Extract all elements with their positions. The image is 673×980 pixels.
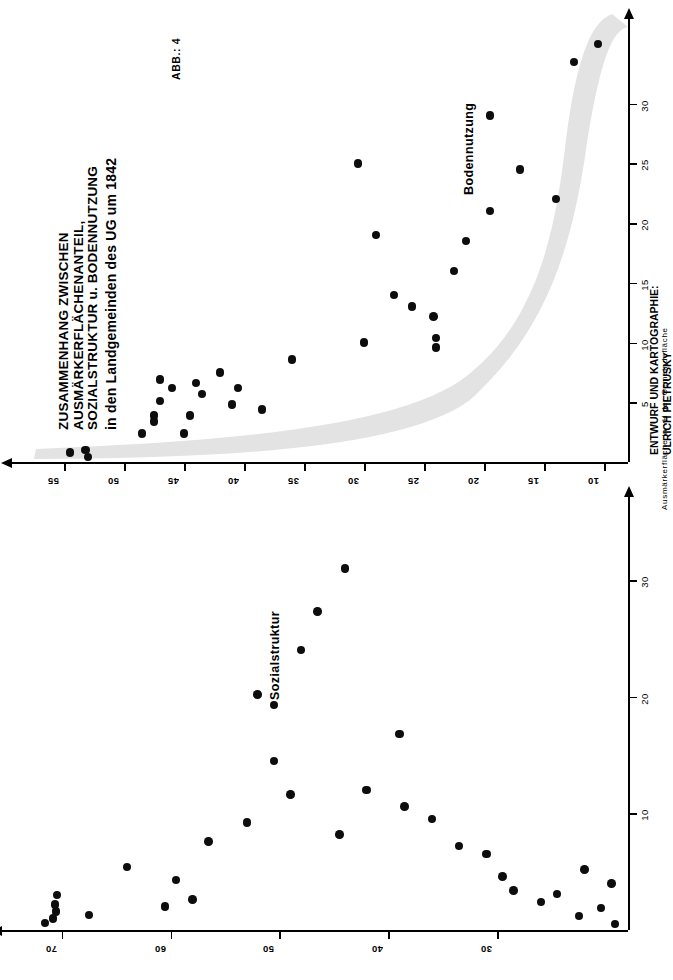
y-axis-tick-label: 70 [45, 944, 57, 955]
y-axis-tick [424, 464, 426, 471]
y-axis-tick-label: 30 [347, 476, 359, 487]
y-axis-tick-label: 40 [372, 944, 384, 955]
y-axis-tick-label: 15 [527, 476, 539, 487]
data-point [258, 405, 267, 414]
x-axis-tick [630, 343, 637, 345]
x-axis-tick-label: 15 [639, 279, 650, 291]
x-axis-tick [630, 163, 637, 165]
y-axis-line [2, 930, 628, 932]
data-point [354, 159, 363, 168]
y-axis-tick-label: 55 [47, 476, 59, 487]
y-axis-tick-label: 10 [587, 476, 599, 487]
y-axis-tick-label: 60 [154, 944, 166, 955]
y-axis-arrow [0, 926, 2, 936]
y-axis-tick [184, 464, 186, 471]
y-axis-tick [497, 932, 499, 939]
data-point [432, 343, 441, 352]
data-point [400, 802, 409, 811]
y-axis-tick [604, 464, 606, 471]
x-axis-tick-label: 5 [639, 401, 650, 407]
data-point [51, 900, 60, 909]
y-axis-tick [279, 932, 281, 939]
y-axis-tick-label: 40 [227, 476, 239, 487]
y-axis-tick [244, 464, 246, 471]
x-axis-tick-label: 10 [639, 339, 650, 351]
data-point [286, 790, 295, 799]
data-point [429, 312, 438, 321]
data-point [186, 411, 195, 420]
y-axis-tick [171, 932, 173, 939]
data-point [253, 690, 262, 699]
x-axis-tick [630, 402, 637, 404]
data-point [156, 375, 165, 384]
y-axis-tick-label: 45 [167, 476, 179, 487]
x-axis-tick [630, 223, 637, 225]
x-axis-line [628, 18, 630, 462]
y-axis-tick [304, 464, 306, 471]
x-axis-tick [630, 813, 637, 815]
x-axis-tick-label: 20 [639, 693, 650, 705]
y-axis-tick-label: 25 [407, 476, 419, 487]
data-point [395, 730, 404, 739]
data-point [228, 400, 237, 409]
data-point [81, 446, 90, 455]
data-point [482, 850, 491, 859]
data-point [362, 786, 371, 795]
y-axis-tick-label: 35 [287, 476, 299, 487]
y-axis-tick [124, 464, 126, 471]
y-axis-tick-label: 50 [107, 476, 119, 487]
chart-title: Sozialstruktur [268, 611, 282, 700]
x-axis-arrow [624, 486, 634, 497]
data-point [138, 429, 147, 438]
data-point [161, 902, 170, 911]
x-axis-tick-label: 30 [639, 576, 650, 588]
x-axis-tick [630, 283, 637, 285]
y-axis-tick [364, 464, 366, 471]
x-axis-tick [630, 697, 637, 699]
data-point [580, 865, 589, 874]
data-point [607, 879, 616, 888]
x-axis-arrow [624, 8, 634, 19]
y-axis-tick [484, 464, 486, 471]
data-point [597, 904, 606, 913]
chart-title: Bodennutzung [462, 103, 476, 195]
y-axis-tick-label: 50 [263, 944, 275, 955]
x-axis-tick-label: 30 [639, 100, 650, 112]
data-point [341, 564, 350, 573]
y-axis-arrow [1, 458, 12, 468]
data-point [204, 837, 213, 846]
data-point [509, 886, 518, 895]
x-axis-tick [630, 580, 637, 582]
x-axis-line [628, 496, 630, 930]
data-point [180, 429, 189, 438]
y-axis-tick [62, 932, 64, 939]
x-axis-tick-label: 20 [639, 219, 650, 231]
data-point [188, 895, 197, 904]
data-point [85, 911, 94, 920]
x-axis-tick [630, 104, 637, 106]
x-axis-title: Ausmärkerfläche in vH der Gemeindefläche [660, 327, 669, 510]
data-point [486, 111, 495, 120]
data-point [516, 165, 525, 174]
figure-page: ABB.: 4 ZUSAMMENHANG ZWISCHEN AUSMÄRKERF… [0, 0, 673, 980]
data-point [288, 355, 297, 364]
y-axis-tick-label: 30 [481, 944, 493, 955]
data-point [498, 872, 507, 881]
y-axis-tick-label: 20 [467, 476, 479, 487]
data-point [335, 830, 344, 839]
y-axis-tick [544, 464, 546, 471]
data-point [243, 818, 252, 827]
x-axis-tick-label: 10 [639, 810, 650, 822]
y-axis-tick [64, 464, 66, 471]
data-point [66, 448, 75, 457]
y-axis-tick [388, 932, 390, 939]
data-point [216, 368, 225, 377]
y-axis-line [12, 462, 628, 464]
data-point [313, 607, 322, 616]
x-axis-tick-label: 25 [639, 160, 650, 172]
data-point [360, 338, 369, 347]
data-point [150, 411, 159, 420]
